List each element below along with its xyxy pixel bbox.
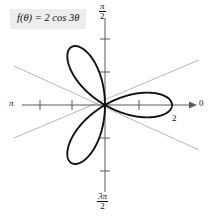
axis-label-pi: π xyxy=(9,99,14,108)
axis-label-zero: 0 xyxy=(199,99,204,108)
axis-label-pi-over-2: π 2 xyxy=(99,2,106,22)
axis-label-pi-over-2-denominator: 2 xyxy=(99,12,106,21)
equation-label: f(θ) = 2 cos 3θ xyxy=(10,9,86,29)
radius-label-two: 2 xyxy=(172,114,177,123)
axis-label-3pi-over-2: 3π 2 xyxy=(97,192,108,212)
horizontal-axis-arrowhead xyxy=(189,102,197,109)
axis-label-3pi-over-2-denominator: 2 xyxy=(97,202,108,211)
polar-rose-figure: f(θ) = 2 cos 3θ π 2 3π 2 π 0 2 xyxy=(0,0,213,216)
polar-plot-canvas xyxy=(0,0,213,216)
